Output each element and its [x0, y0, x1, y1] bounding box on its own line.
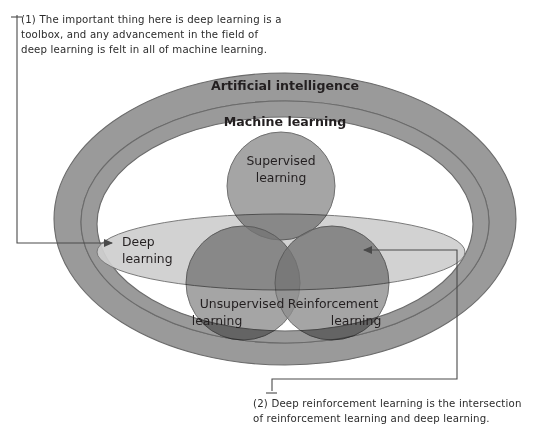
deep-learning-label-line2: learning [122, 251, 173, 266]
figure-canvas: (1) The important thing here is deep lea… [0, 0, 538, 429]
reinforcement-learning-label-line2: learning [331, 313, 382, 328]
reinforcement-learning-label-line1: Reinforcement [288, 296, 379, 311]
machine-learning-label: Machine learning [224, 114, 347, 129]
supervised-learning-label-line1: Supervised [246, 153, 315, 168]
unsupervised-learning-label-line2: learning [192, 313, 243, 328]
supervised-learning-label-line2: learning [256, 170, 307, 185]
euler-diagram: Artificial intelligence Machine learning… [0, 0, 538, 429]
deep-learning-label-line1: Deep [122, 234, 155, 249]
supervised-learning-circle [227, 132, 335, 240]
unsupervised-learning-label-line1: Unsupervised [200, 296, 285, 311]
artificial-intelligence-label: Artificial intelligence [211, 78, 359, 93]
